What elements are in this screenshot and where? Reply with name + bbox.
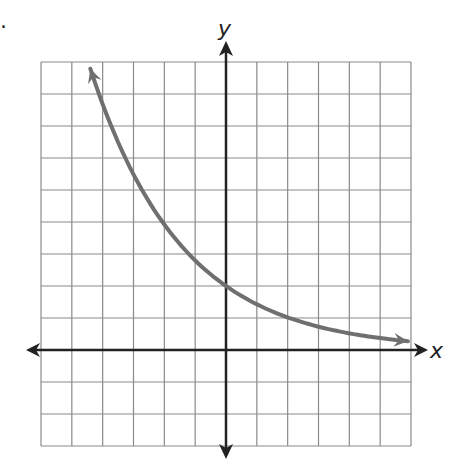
exponential-graph: . y x xyxy=(0,0,449,460)
curve-arrowheads xyxy=(88,69,408,347)
y-axis-label: y xyxy=(217,16,232,41)
x-axis-label: x xyxy=(429,338,444,363)
item-marker-dot: . xyxy=(0,8,7,33)
exponential-curve xyxy=(90,69,408,342)
axes xyxy=(26,41,428,459)
